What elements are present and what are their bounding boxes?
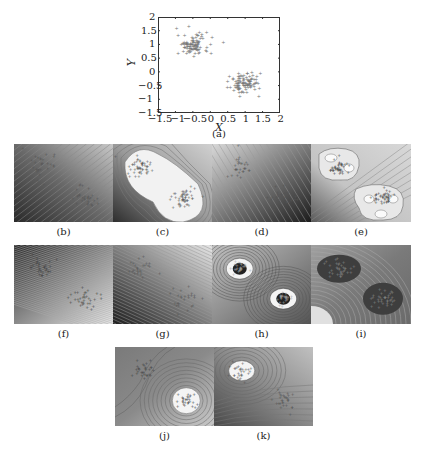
svg-text:+: + xyxy=(200,296,204,301)
y-tick-label: 0.5 xyxy=(141,53,157,63)
svg-text:+: + xyxy=(185,394,189,399)
svg-text:+: + xyxy=(352,264,356,269)
svg-text:+: + xyxy=(270,397,274,402)
svg-text:+: + xyxy=(49,162,53,167)
svg-text:+: + xyxy=(243,264,247,269)
svg-text:+: + xyxy=(385,301,389,306)
svg-text:+: + xyxy=(135,358,139,363)
svg-text:+: + xyxy=(44,152,48,157)
svg-text:+: + xyxy=(48,269,52,274)
svg-text:+: + xyxy=(173,301,177,306)
svg-text:+: + xyxy=(284,194,288,199)
svg-text:+: + xyxy=(168,197,172,202)
svg-text:+: + xyxy=(290,405,294,410)
svg-text:+: + xyxy=(373,300,377,305)
svg-text:+: + xyxy=(284,403,288,408)
x-tick-label: 2 xyxy=(278,114,284,124)
svg-text:+: + xyxy=(181,192,185,197)
svg-text:+: + xyxy=(226,373,230,378)
x-tick-label: −0.5 xyxy=(183,114,207,124)
svg-text:+: + xyxy=(174,191,178,196)
svg-text:+: + xyxy=(228,364,232,369)
svg-text:+: + xyxy=(193,186,197,191)
contour-panel-i: ++++++++++++++++++++++++++++++++++++++++… xyxy=(311,245,411,324)
svg-text:+: + xyxy=(176,293,180,298)
y-tick-label: −0.5 xyxy=(138,81,162,91)
svg-text:+: + xyxy=(131,261,135,266)
svg-text:+: + xyxy=(75,201,79,206)
svg-text:+: + xyxy=(133,160,137,165)
svg-text:+: + xyxy=(255,73,259,79)
svg-text:+: + xyxy=(323,261,327,266)
x-tick-label: 1.5 xyxy=(255,114,271,124)
svg-text:+: + xyxy=(372,293,376,298)
svg-text:+: + xyxy=(130,373,134,378)
svg-text:+: + xyxy=(349,270,353,275)
svg-text:+: + xyxy=(279,405,283,410)
svg-text:+: + xyxy=(183,32,187,38)
svg-text:+: + xyxy=(378,295,382,300)
svg-text:+: + xyxy=(73,290,77,295)
svg-text:+: + xyxy=(328,274,332,279)
x-tick-label: −1.5 xyxy=(148,114,172,124)
svg-text:+: + xyxy=(187,293,191,298)
svg-text:+: + xyxy=(40,273,44,278)
svg-text:+: + xyxy=(257,93,261,99)
svg-text:+: + xyxy=(192,392,196,397)
svg-text:+: + xyxy=(233,373,237,378)
svg-text:+: + xyxy=(209,41,213,47)
svg-text:+: + xyxy=(191,196,195,201)
svg-text:+: + xyxy=(191,404,195,409)
svg-text:+: + xyxy=(246,162,250,167)
svg-text:+: + xyxy=(21,146,25,151)
svg-text:+: + xyxy=(36,178,40,183)
svg-text:+: + xyxy=(241,169,245,174)
svg-text:+: + xyxy=(375,197,379,202)
svg-text:+: + xyxy=(204,29,208,35)
svg-text:+: + xyxy=(149,358,153,363)
y-tick-label: 2 xyxy=(149,12,155,22)
svg-text:+: + xyxy=(27,176,31,181)
svg-text:+: + xyxy=(386,295,390,300)
svg-text:+: + xyxy=(332,157,336,162)
svg-text:+: + xyxy=(243,380,247,385)
svg-text:+: + xyxy=(345,161,349,166)
svg-text:+: + xyxy=(137,256,141,261)
svg-text:+: + xyxy=(137,174,141,179)
contour-panel-h: ++++++++++++++++++++++++++++++++++++++++… xyxy=(212,245,311,324)
svg-text:+: + xyxy=(282,183,286,188)
svg-text:+: + xyxy=(288,412,292,417)
svg-text:+: + xyxy=(383,196,387,201)
svg-text:+: + xyxy=(92,304,96,309)
svg-text:+: + xyxy=(270,195,274,200)
svg-text:+: + xyxy=(183,204,187,209)
svg-text:+: + xyxy=(187,284,191,289)
svg-text:+: + xyxy=(194,46,198,52)
svg-text:+: + xyxy=(145,261,149,266)
svg-text:+: + xyxy=(276,192,280,197)
svg-text:+: + xyxy=(40,161,44,166)
svg-text:+: + xyxy=(134,174,138,179)
svg-text:+: + xyxy=(88,301,92,306)
svg-text:+: + xyxy=(248,369,252,374)
svg-text:+: + xyxy=(383,288,387,293)
svg-text:+: + xyxy=(285,295,289,300)
svg-text:+: + xyxy=(278,395,282,400)
svg-text:+: + xyxy=(370,304,374,309)
svg-text:+: + xyxy=(76,194,80,199)
svg-text:+: + xyxy=(35,260,39,265)
svg-text:+: + xyxy=(142,363,146,368)
contour-panel-d: ++++++++++++++++++++++++++++++++++++++++… xyxy=(212,144,311,222)
svg-text:+: + xyxy=(266,195,270,200)
svg-text:+: + xyxy=(33,160,37,165)
svg-text:+: + xyxy=(381,301,385,306)
contour-panel-c: ++++++++++++++++++++++++++++++++++++++++… xyxy=(113,144,212,222)
contour-panel-b: ++++++++++++++++++++++++++++++++++++++++… xyxy=(14,144,113,222)
svg-text:+: + xyxy=(377,191,381,196)
svg-text:+: + xyxy=(176,32,180,38)
svg-text:+: + xyxy=(168,291,172,296)
svg-text:+: + xyxy=(239,266,243,271)
svg-text:+: + xyxy=(42,182,46,187)
caption-b: (b) xyxy=(44,226,84,237)
y-tick-label: −1 xyxy=(138,94,153,104)
